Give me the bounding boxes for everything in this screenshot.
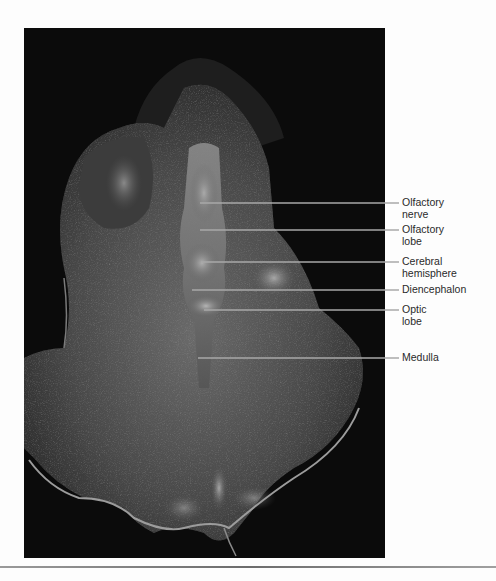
label-medulla: Medulla: [402, 352, 439, 364]
label-olfactory-lobe: Olfactory lobe: [402, 224, 444, 247]
page-divider: [0, 566, 496, 568]
label-olfactory-nerve: Olfactory nerve: [402, 197, 444, 220]
dissection-photo: [24, 28, 385, 558]
label-diencephalon: Diencephalon: [402, 284, 466, 296]
anatomy-figure: Olfactory nerve Olfactory lobe Cerebral …: [0, 0, 496, 581]
label-optic-lobe: Optic lobe: [402, 304, 427, 327]
label-cerebral-hemisphere: Cerebral hemisphere: [402, 256, 457, 279]
specimen-illustration: [24, 28, 385, 558]
